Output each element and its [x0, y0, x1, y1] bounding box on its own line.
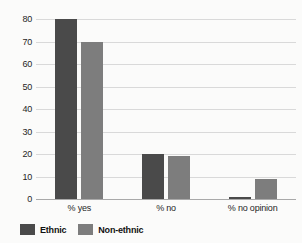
bar: [55, 19, 77, 199]
y-tick-label: 60: [0, 60, 32, 69]
legend-swatch: [78, 224, 93, 235]
bar-chart-figure: 01020304050607080 % yes% no% no opinion …: [0, 0, 302, 243]
axis-baseline: [36, 199, 296, 200]
y-tick-label: 20: [0, 150, 32, 159]
legend-item: Ethnic: [20, 224, 66, 235]
y-axis: 01020304050607080: [0, 0, 32, 243]
legend: EthnicNon-ethnic: [20, 224, 143, 235]
bar: [255, 179, 277, 199]
plot-area: [36, 19, 296, 199]
bar: [81, 42, 103, 200]
y-tick-label: 80: [0, 15, 32, 24]
legend-label: Non-ethnic: [98, 225, 143, 235]
y-tick-label: 10: [0, 173, 32, 182]
bar: [168, 156, 190, 199]
bar: [142, 154, 164, 199]
y-tick-label: 70: [0, 38, 32, 47]
y-tick-label: 50: [0, 83, 32, 92]
legend-label: Ethnic: [40, 225, 66, 235]
legend-item: Non-ethnic: [78, 224, 143, 235]
bar: [229, 197, 251, 199]
y-tick-label: 0: [0, 195, 32, 204]
y-tick-label: 30: [0, 128, 32, 137]
x-tick-label: % yes: [36, 203, 123, 213]
x-tick-label: % no: [123, 203, 210, 213]
x-tick-label: % no opinion: [209, 203, 296, 213]
y-tick-label: 40: [0, 105, 32, 114]
legend-swatch: [20, 224, 35, 235]
